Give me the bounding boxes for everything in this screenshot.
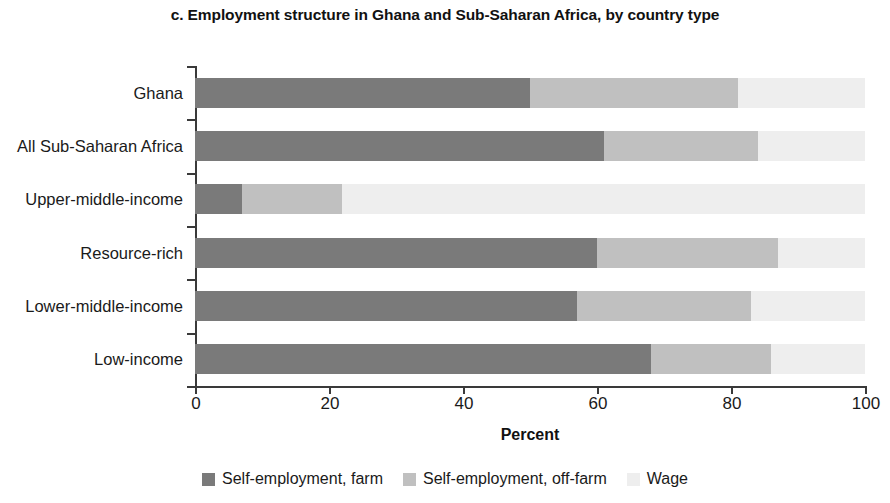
- y-axis-tick: [187, 386, 195, 388]
- legend-item: Wage: [627, 470, 688, 488]
- y-axis-label: Lower-middle-income: [0, 297, 183, 316]
- bar-row: [195, 184, 865, 214]
- chart-title: c. Employment structure in Ghana and Sub…: [0, 6, 890, 24]
- bar-segment: [195, 131, 604, 161]
- x-axis-tick: [731, 386, 733, 394]
- y-axis-tick: [187, 279, 195, 281]
- bar-segment: [530, 78, 738, 108]
- bar-row: [195, 291, 865, 321]
- x-axis-tick-label: 20: [321, 394, 340, 414]
- stacked-bar-chart: c. Employment structure in Ghana and Sub…: [0, 0, 890, 503]
- x-axis-tick: [597, 386, 599, 394]
- bar-segment: [751, 291, 865, 321]
- legend-label: Wage: [647, 470, 688, 488]
- chart-legend: Self-employment, farmSelf-employment, of…: [0, 470, 890, 488]
- y-axis-label: Ghana: [0, 83, 183, 102]
- x-axis-tick: [195, 386, 197, 394]
- bar-segment: [195, 291, 577, 321]
- bar-segment: [758, 131, 865, 161]
- bar-segment: [778, 238, 865, 268]
- bar-segment: [577, 291, 751, 321]
- bar-segment: [195, 238, 597, 268]
- legend-swatch-icon: [403, 473, 416, 486]
- bar-segment: [651, 344, 772, 374]
- x-axis-tick: [865, 386, 867, 394]
- y-axis-tick: [187, 226, 195, 228]
- x-axis-tick-label: 80: [723, 394, 742, 414]
- bar-row: [195, 238, 865, 268]
- legend-label: Self-employment, farm: [222, 470, 383, 488]
- y-axis-tick: [187, 173, 195, 175]
- legend-item: Self-employment, farm: [202, 470, 383, 488]
- bar-row: [195, 78, 865, 108]
- bar-segment: [604, 131, 758, 161]
- x-axis-tick: [463, 386, 465, 394]
- legend-label: Self-employment, off-farm: [423, 470, 607, 488]
- legend-swatch-icon: [202, 473, 215, 486]
- bar-segment: [342, 184, 865, 214]
- bar-row: [195, 131, 865, 161]
- y-axis-label: Upper-middle-income: [0, 190, 183, 209]
- y-axis-label: Low-income: [0, 350, 183, 369]
- y-axis-tick: [187, 119, 195, 121]
- bar-segment: [195, 78, 530, 108]
- bar-segment: [771, 344, 865, 374]
- y-axis-tick: [187, 333, 195, 335]
- bar-segment: [195, 344, 651, 374]
- y-axis-label: Resource-rich: [0, 243, 183, 262]
- plot-area: [195, 66, 865, 386]
- y-axis-tick: [187, 66, 195, 68]
- y-axis-label: All Sub-Saharan Africa: [0, 137, 183, 156]
- x-axis-tick-label: 0: [191, 394, 200, 414]
- x-axis-tick-label: 60: [589, 394, 608, 414]
- x-axis-tick-label: 100: [852, 394, 880, 414]
- bar-segment: [738, 78, 865, 108]
- x-axis-tick-label: 40: [455, 394, 474, 414]
- x-axis-line: [195, 386, 867, 388]
- x-axis-title: Percent: [195, 426, 865, 444]
- x-axis-tick: [329, 386, 331, 394]
- legend-swatch-icon: [627, 473, 640, 486]
- bar-row: [195, 344, 865, 374]
- legend-item: Self-employment, off-farm: [403, 470, 607, 488]
- bar-segment: [597, 238, 778, 268]
- bar-segment: [242, 184, 343, 214]
- bar-segment: [195, 184, 242, 214]
